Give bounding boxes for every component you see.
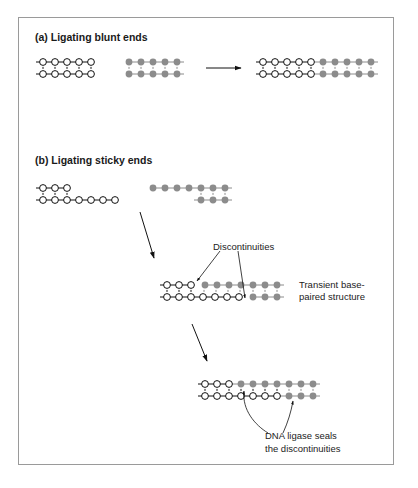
nucleotide-filled (126, 59, 133, 66)
nucleotide-filled (332, 71, 339, 78)
nucleotide-open (238, 393, 245, 400)
pointer-arrow-icon (197, 251, 220, 281)
nucleotide-filled (174, 71, 181, 78)
nucleotide-filled (150, 71, 157, 78)
arrow-down-icon (192, 324, 207, 361)
nucleotide-filled (198, 197, 205, 204)
nucleotide-open (202, 393, 209, 400)
nucleotide-open (64, 197, 71, 204)
nucleotide-filled (126, 71, 133, 78)
nucleotide-open (296, 59, 303, 66)
nucleotide-filled (226, 282, 233, 289)
nucleotide-filled (250, 381, 257, 388)
nucleotide-filled (298, 381, 305, 388)
nucleotide-filled (210, 197, 217, 204)
nucleotide-filled (344, 59, 351, 66)
dna-ligation-diagram (0, 0, 418, 488)
nucleotide-open (272, 71, 279, 78)
nucleotide-open (226, 381, 233, 388)
nucleotide-open (236, 294, 243, 301)
nucleotide-filled (262, 282, 269, 289)
nucleotide-open (284, 71, 291, 78)
nucleotide-filled (310, 393, 317, 400)
nucleotide-open (112, 197, 119, 204)
nucleotide-open (40, 59, 47, 66)
nucleotide-filled (138, 59, 145, 66)
nucleotide-open (52, 185, 59, 192)
nucleotide-open (164, 294, 171, 301)
nucleotide-filled (262, 381, 269, 388)
nucleotide-open (52, 197, 59, 204)
nucleotide-open (88, 71, 95, 78)
nucleotide-open (224, 294, 231, 301)
nucleotide-filled (344, 71, 351, 78)
nucleotide-open (64, 59, 71, 66)
nucleotide-open (176, 294, 183, 301)
nucleotide-filled (174, 59, 181, 66)
nucleotide-filled (210, 185, 217, 192)
nucleotide-open (202, 381, 209, 388)
nucleotide-filled (222, 197, 229, 204)
nucleotide-filled (186, 185, 193, 192)
nucleotide-open (64, 185, 71, 192)
nucleotide-open (52, 71, 59, 78)
nucleotide-filled (162, 71, 169, 78)
nucleotide-open (88, 197, 95, 204)
dna-strands (36, 59, 378, 400)
nucleotide-filled (356, 59, 363, 66)
nucleotide-filled (320, 59, 327, 66)
nucleotide-open (272, 59, 279, 66)
nucleotide-filled (222, 185, 229, 192)
nucleotide-open (100, 197, 107, 204)
nucleotide-filled (250, 294, 257, 301)
nucleotide-open (188, 282, 195, 289)
nucleotide-open (40, 197, 47, 204)
arrow-down-icon (140, 212, 154, 258)
nucleotide-filled (298, 393, 305, 400)
nucleotide-filled (368, 59, 375, 66)
nucleotide-filled (320, 71, 327, 78)
nucleotide-open (296, 71, 303, 78)
nucleotide-open (250, 393, 257, 400)
nucleotide-open (76, 197, 83, 204)
nucleotide-filled (150, 185, 157, 192)
nucleotide-filled (214, 282, 221, 289)
nucleotide-open (76, 59, 83, 66)
nucleotide-open (88, 59, 95, 66)
nucleotide-open (176, 282, 183, 289)
nucleotide-open (64, 71, 71, 78)
nucleotide-filled (202, 282, 209, 289)
nucleotide-filled (238, 381, 245, 388)
nucleotide-filled (310, 381, 317, 388)
nucleotide-filled (162, 185, 169, 192)
nucleotide-filled (150, 59, 157, 66)
nucleotide-open (308, 71, 315, 78)
nucleotide-filled (198, 185, 205, 192)
nucleotide-open (76, 71, 83, 78)
nucleotide-filled (262, 294, 269, 301)
nucleotide-open (200, 294, 207, 301)
nucleotide-open (52, 59, 59, 66)
pointer-arrow-icon (283, 401, 293, 433)
nucleotide-filled (332, 59, 339, 66)
nucleotide-open (40, 185, 47, 192)
nucleotide-filled (274, 294, 281, 301)
nucleotide-open (260, 59, 267, 66)
nucleotide-open (212, 294, 219, 301)
nucleotide-filled (138, 71, 145, 78)
nucleotide-open (262, 393, 269, 400)
nucleotide-open (274, 393, 281, 400)
nucleotide-filled (286, 381, 293, 388)
nucleotide-open (188, 294, 195, 301)
nucleotide-open (308, 59, 315, 66)
nucleotide-open (260, 71, 267, 78)
nucleotide-filled (286, 393, 293, 400)
nucleotide-open (164, 282, 171, 289)
nucleotide-filled (274, 282, 281, 289)
nucleotide-open (40, 71, 47, 78)
nucleotide-filled (274, 381, 281, 388)
nucleotide-open (284, 59, 291, 66)
nucleotide-filled (368, 71, 375, 78)
nucleotide-open (214, 381, 221, 388)
pointer-arrow-icon (238, 251, 245, 298)
